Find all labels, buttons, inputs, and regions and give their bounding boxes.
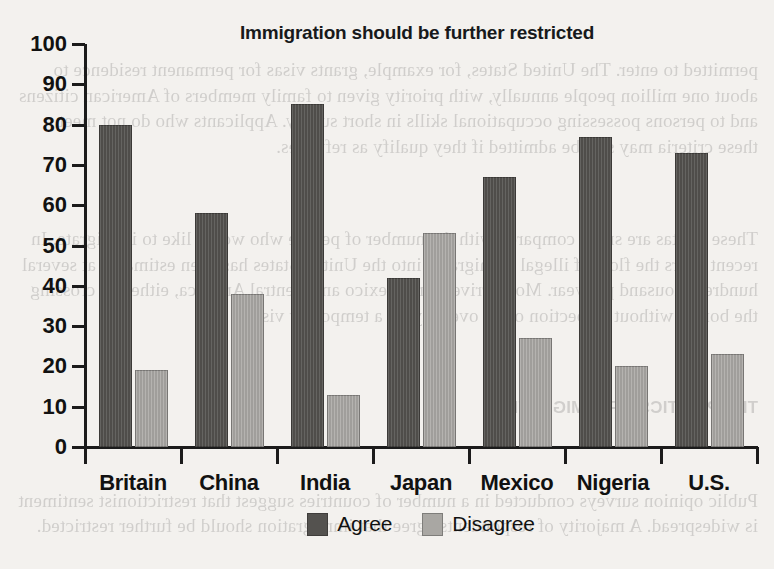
- legend-item-agree[interactable]: Agree: [307, 512, 392, 536]
- y-axis-tick-label: 20: [43, 353, 67, 379]
- y-axis-tick-label: 30: [43, 313, 67, 339]
- bar-disagree-china[interactable]: [231, 294, 264, 447]
- x-axis-tick: [660, 447, 663, 464]
- x-axis-label-mexico: Mexico: [469, 470, 565, 496]
- x-axis-tick: [276, 447, 279, 464]
- y-axis-tick: [72, 164, 85, 167]
- x-axis-label-britain: Britain: [85, 470, 181, 496]
- y-axis-tick: [72, 365, 85, 368]
- y-axis-tick: [72, 285, 85, 288]
- bar-agree-china[interactable]: [195, 213, 228, 447]
- legend-label-agree: Agree: [337, 512, 392, 536]
- legend-swatch-disagree: [422, 513, 443, 536]
- y-axis-tick: [72, 325, 85, 328]
- bar-group-us: [661, 44, 757, 447]
- bar-disagree-us[interactable]: [711, 354, 744, 447]
- bar-disagree-mexico[interactable]: [519, 338, 552, 447]
- bar-agree-britain[interactable]: [99, 125, 132, 447]
- x-axis-label-us: U.S.: [661, 470, 757, 496]
- x-axis-tick: [180, 447, 183, 464]
- bar-agree-japan[interactable]: [387, 278, 420, 447]
- bar-disagree-britain[interactable]: [135, 370, 168, 447]
- bar-agree-india[interactable]: [291, 104, 324, 447]
- bar-group-britain: [85, 44, 181, 447]
- x-axis-label-japan: Japan: [373, 470, 469, 496]
- bar-agree-us[interactable]: [675, 153, 708, 447]
- plot-area: 0102030405060708090100: [85, 44, 757, 447]
- bar-group-china: [181, 44, 277, 447]
- bar-disagree-nigeria[interactable]: [615, 366, 648, 447]
- bar-groups: [85, 44, 757, 447]
- chart-legend: AgreeDisagree: [85, 512, 757, 536]
- y-axis-tick-label: 80: [43, 112, 67, 138]
- bar-group-japan: [373, 44, 469, 447]
- x-axis-tick: [372, 447, 375, 464]
- bar-disagree-japan[interactable]: [423, 233, 456, 447]
- bar-agree-mexico[interactable]: [483, 177, 516, 447]
- chart-title: Immigration should be further restricted: [0, 22, 774, 44]
- legend-item-disagree[interactable]: Disagree: [422, 512, 534, 536]
- y-axis-tick-label: 0: [55, 434, 67, 460]
- bar-chart-figure: Immigration should be further restricted…: [0, 0, 774, 569]
- y-axis-tick: [72, 83, 85, 86]
- y-axis-tick: [72, 124, 85, 127]
- x-axis-tick: [84, 447, 87, 464]
- y-axis-tick: [72, 204, 85, 207]
- x-axis-label-nigeria: Nigeria: [565, 470, 661, 496]
- y-axis-tick-label: 100: [30, 31, 67, 57]
- bar-group-india: [277, 44, 373, 447]
- y-axis-tick-label: 70: [43, 152, 67, 178]
- y-axis-tick: [72, 43, 85, 46]
- y-axis-tick: [72, 406, 85, 409]
- x-axis-tick: [756, 447, 759, 464]
- x-axis-tick: [564, 447, 567, 464]
- y-axis-tick-label: 10: [43, 394, 67, 420]
- bar-group-mexico: [469, 44, 565, 447]
- bar-agree-nigeria[interactable]: [579, 137, 612, 447]
- legend-label-disagree: Disagree: [452, 512, 534, 536]
- y-axis-tick-label: 40: [43, 273, 67, 299]
- y-axis-tick-label: 50: [43, 233, 67, 259]
- x-axis-label-india: India: [277, 470, 373, 496]
- x-axis-tick: [468, 447, 471, 464]
- x-axis-label-china: China: [181, 470, 277, 496]
- bar-group-nigeria: [565, 44, 661, 447]
- x-axis-labels: BritainChinaIndiaJapanMexicoNigeriaU.S.: [85, 470, 757, 496]
- y-axis-tick-label: 60: [43, 192, 67, 218]
- y-axis-tick: [72, 245, 85, 248]
- y-axis-tick-label: 90: [43, 71, 67, 97]
- bar-disagree-india[interactable]: [327, 395, 360, 447]
- legend-swatch-agree: [307, 513, 328, 536]
